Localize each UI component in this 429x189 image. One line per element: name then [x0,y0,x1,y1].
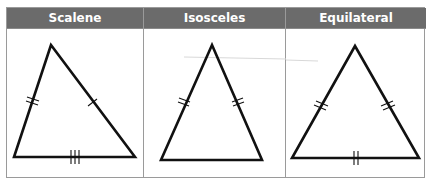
column-header-scalene: Scalene [7,8,143,29]
column-equilateral: Equilateral [286,8,426,177]
column-header-equilateral: Equilateral [286,8,426,29]
isosceles-cell [144,29,285,177]
triangle-types-table: Scalene I [6,7,425,178]
column-isosceles: Isosceles [144,8,286,177]
equilateral-triangle-icon [286,29,426,179]
isosceles-triangle-icon [144,29,286,179]
scalene-cell [7,29,143,177]
column-header-isosceles: Isosceles [144,8,285,29]
scalene-triangle-icon [7,29,144,179]
equilateral-cell [286,29,426,177]
column-scalene: Scalene [7,8,144,177]
